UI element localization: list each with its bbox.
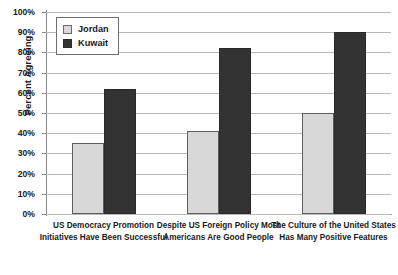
bar-jordan-group-2 [187, 131, 219, 214]
x-category-label-line: Has Many Positive Features [266, 232, 398, 244]
y-tick-mark [42, 73, 46, 74]
legend-label-jordan: Jordan [78, 24, 109, 34]
y-tick-mark [42, 133, 46, 134]
bar-jordan-group-3 [302, 113, 334, 214]
y-tick-label: 10% [0, 189, 35, 199]
y-tick-mark [42, 153, 46, 154]
y-tick-mark [42, 113, 46, 114]
y-tick-mark [42, 174, 46, 175]
gridline [46, 12, 391, 13]
y-tick-label: 30% [0, 148, 35, 158]
y-tick-label: 50% [0, 108, 35, 118]
legend-label-kuwait: Kuwait [78, 38, 108, 48]
y-tick-label: 0% [0, 209, 35, 219]
y-tick-mark [42, 52, 46, 53]
gridline [46, 214, 391, 215]
bar-jordan-group-1 [72, 143, 104, 214]
legend-item-kuwait[interactable]: Kuwait [63, 36, 109, 50]
y-tick-label: 80% [0, 47, 35, 57]
kuwait-swatch-icon [63, 39, 72, 48]
bar-kuwait-group-1 [104, 89, 136, 214]
y-tick-label: 70% [0, 68, 35, 78]
x-category-label-3: The Culture of the United StatesHas Many… [266, 220, 398, 244]
y-tick-mark [42, 12, 46, 13]
chart-legend: Jordan Kuwait [56, 17, 119, 55]
y-tick-mark [42, 93, 46, 94]
x-category-label-line: The Culture of the United States [266, 220, 398, 232]
bar-kuwait-group-3 [334, 32, 366, 214]
y-tick-mark [42, 32, 46, 33]
y-tick-mark [42, 214, 46, 215]
y-tick-label: 90% [0, 27, 35, 37]
y-tick-label: 100% [0, 7, 35, 17]
y-tick-label: 40% [0, 128, 35, 138]
legend-item-jordan[interactable]: Jordan [63, 22, 109, 36]
y-tick-label: 60% [0, 88, 35, 98]
bar-chart: Percent Agreeing 100%90%80%70%60%50%40%3… [0, 0, 398, 275]
y-tick-label: 20% [0, 169, 35, 179]
jordan-swatch-icon [63, 25, 72, 34]
bar-kuwait-group-2 [219, 48, 251, 214]
y-tick-mark [42, 194, 46, 195]
